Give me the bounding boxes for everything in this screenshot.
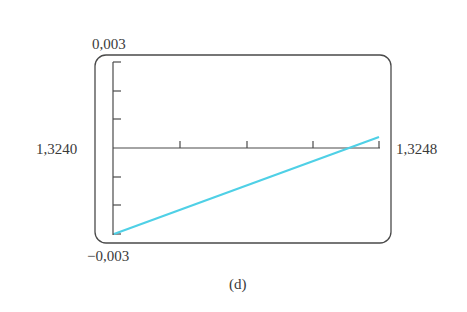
figure-caption: (d) (229, 276, 247, 292)
x-max-label: 1,3248 (396, 141, 437, 157)
y-max-label: 0,003 (92, 36, 126, 52)
x-axis (113, 141, 380, 148)
y-min-label: −0,003 (87, 248, 129, 264)
function-curve (114, 137, 379, 234)
x-min-label: 1,3240 (36, 141, 77, 157)
